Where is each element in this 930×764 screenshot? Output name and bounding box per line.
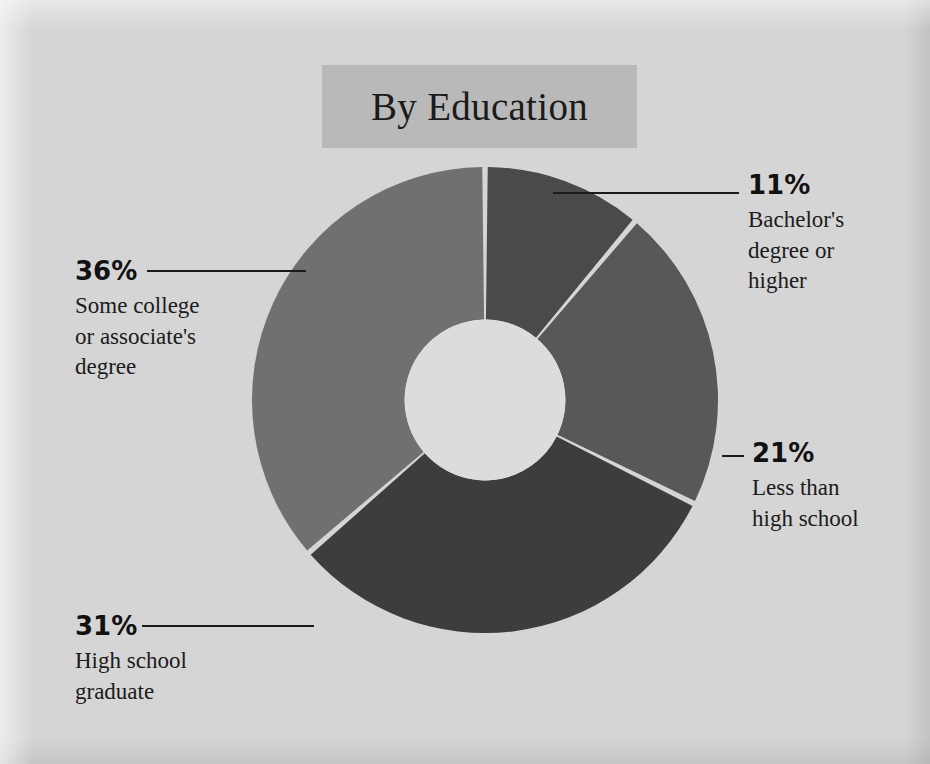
callout-some-college-label: Some college or associate's degree [75, 291, 200, 383]
callout-high-school-graduate: 31% High school graduate [75, 613, 187, 707]
callout-bachelors-label-line-1: Bachelor's [748, 205, 844, 236]
callout-bachelors-label: Bachelor's degree or higher [748, 205, 844, 297]
callout-some-college-label-line-3: degree [75, 352, 200, 383]
callout-some-college: 36% Some college or associate's degree [75, 258, 200, 383]
callout-bachelors-percent: 11% [748, 172, 844, 198]
donut-center-hole [405, 320, 566, 481]
education-donut-chart-figure: By Education 11% Bachelor's degree or hi… [0, 0, 930, 764]
donut-chart [252, 167, 718, 633]
leader-line-bachelors [553, 192, 739, 194]
callout-high-school-graduate-label: High school graduate [75, 646, 187, 707]
title-banner: By Education [322, 65, 637, 148]
callout-bachelors-label-line-2: degree or [748, 236, 844, 267]
callout-less-than-high-school: 21% Less than high school [752, 440, 859, 534]
callout-some-college-percent: 36% [75, 258, 200, 284]
callout-less-than-high-school-percent: 21% [752, 440, 859, 466]
callout-high-school-graduate-percent: 31% [75, 613, 187, 639]
callout-bachelors: 11% Bachelor's degree or higher [748, 172, 844, 297]
callout-less-than-high-school-label-line-1: Less than [752, 473, 859, 504]
leader-line-less-than-high-school [722, 455, 744, 457]
callout-less-than-high-school-label-line-2: high school [752, 504, 859, 535]
callout-bachelors-label-line-3: higher [748, 266, 844, 297]
callout-some-college-label-line-2: or associate's [75, 322, 200, 353]
callout-less-than-high-school-label: Less than high school [752, 473, 859, 534]
page-title: By Education [322, 65, 637, 148]
callout-high-school-graduate-label-line-1: High school [75, 646, 187, 677]
callout-some-college-label-line-1: Some college [75, 291, 200, 322]
donut-chart-svg [252, 167, 718, 633]
callout-high-school-graduate-label-line-2: graduate [75, 677, 187, 708]
